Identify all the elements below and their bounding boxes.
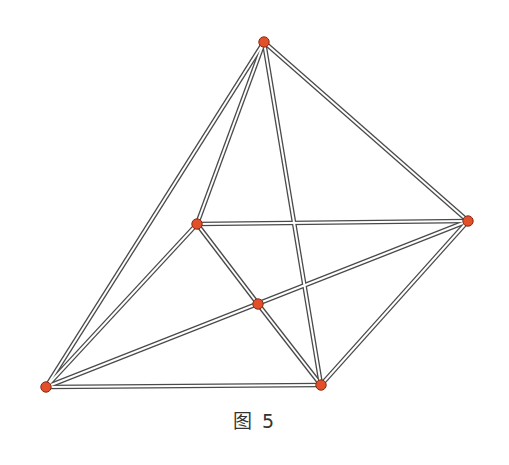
vertex-A — [41, 382, 51, 392]
edge-inner-MC — [197, 224, 258, 304]
edge-inner-TB — [264, 42, 321, 385]
edges-outer — [46, 42, 468, 387]
tetrahedron-diagram — [0, 0, 509, 465]
nodes — [41, 37, 473, 392]
vertex-M — [192, 219, 202, 229]
vertex-C — [253, 299, 263, 309]
edges-inner — [46, 42, 468, 387]
edge-inner-TA — [46, 42, 264, 387]
vertex-B — [316, 380, 326, 390]
vertex-R — [463, 216, 473, 226]
edge-inner-MA — [46, 224, 197, 387]
edge-inner-BR — [321, 221, 468, 385]
figure-caption: 图 5 — [0, 406, 509, 433]
vertex-T — [259, 37, 269, 47]
edge-inner-TR — [264, 42, 468, 221]
